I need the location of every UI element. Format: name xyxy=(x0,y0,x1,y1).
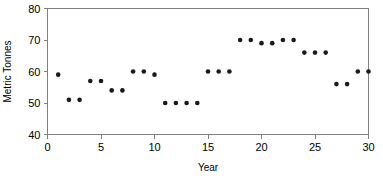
data-point xyxy=(216,69,221,74)
data-point xyxy=(281,38,286,43)
data-point xyxy=(291,38,296,43)
data-point xyxy=(56,72,61,77)
data-point xyxy=(77,98,82,103)
chart-canvas: 4050607080 051015202530 Year Metric Tonn… xyxy=(0,0,383,178)
data-point xyxy=(313,50,318,55)
data-point xyxy=(249,38,254,43)
y-tick-label: 60 xyxy=(28,66,40,78)
data-point xyxy=(67,98,72,103)
data-point xyxy=(302,50,307,55)
data-point xyxy=(99,79,104,84)
y-axis-title: Metric Tonnes xyxy=(2,40,13,102)
y-tick-label: 40 xyxy=(28,129,40,141)
x-tick-label: 20 xyxy=(255,141,267,153)
data-point xyxy=(270,41,275,46)
data-point xyxy=(345,82,350,87)
data-point xyxy=(88,79,93,84)
x-tick-label: 10 xyxy=(148,141,160,153)
data-point xyxy=(356,69,361,74)
data-point xyxy=(238,38,243,43)
data-point xyxy=(174,101,179,106)
x-tick-label: 30 xyxy=(362,141,374,153)
data-point xyxy=(184,101,189,106)
x-axis-title: Year xyxy=(198,162,219,173)
data-point xyxy=(366,69,371,74)
data-point xyxy=(120,88,125,93)
axis-tick-marks xyxy=(44,9,369,139)
data-point xyxy=(195,101,200,106)
data-point xyxy=(109,88,114,93)
data-points-group xyxy=(56,38,371,106)
data-point xyxy=(152,72,157,77)
x-tick-label: 0 xyxy=(44,141,50,153)
data-point xyxy=(163,101,168,106)
y-tick-label: 80 xyxy=(28,3,40,15)
x-tick-label: 15 xyxy=(202,141,214,153)
data-point xyxy=(131,69,136,74)
y-tick-label: 50 xyxy=(28,97,40,109)
data-point xyxy=(323,50,328,55)
x-tick-label: 25 xyxy=(309,141,321,153)
data-point xyxy=(142,69,147,74)
data-point xyxy=(227,69,232,74)
x-tick-label: 5 xyxy=(98,141,104,153)
x-axis-tick-labels: 051015202530 xyxy=(44,141,374,153)
scatter-chart: 4050607080 051015202530 Year Metric Tonn… xyxy=(0,0,383,178)
data-point xyxy=(259,41,264,46)
data-point xyxy=(206,69,211,74)
y-tick-label: 70 xyxy=(28,34,40,46)
data-point xyxy=(334,82,339,87)
y-axis-tick-labels: 4050607080 xyxy=(28,3,40,141)
